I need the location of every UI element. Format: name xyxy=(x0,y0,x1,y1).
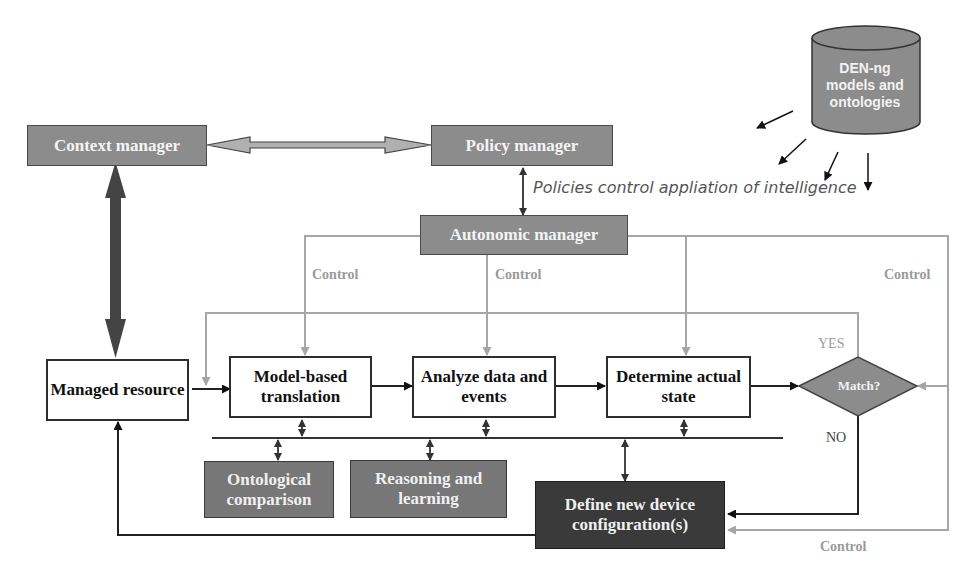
determine-actual-state-node: Determine actual state xyxy=(606,356,751,418)
context-manager-node: Context manager xyxy=(27,125,207,166)
reasoning-learning-node: Reasoning and learning xyxy=(350,460,507,518)
managed-resource-label: Managed resource xyxy=(51,380,185,400)
match-decision-label: Match? xyxy=(800,378,918,394)
context-resource-link xyxy=(105,162,126,358)
autonomic-manager-node: Autonomic manager xyxy=(420,215,628,255)
ontological-comparison-label: Ontological comparison xyxy=(205,470,333,509)
analyze-data-events-label: Analyze data and events xyxy=(414,367,554,406)
define-new-config-label: Define new device configuration(s) xyxy=(536,495,724,534)
determine-actual-state-label: Determine actual state xyxy=(608,367,749,406)
policy-manager-label: Policy manager xyxy=(466,136,579,156)
database-label: DEN-ng models and ontologies xyxy=(815,60,915,110)
analyze-data-events-node: Analyze data and events xyxy=(412,356,556,418)
yes-label: YES xyxy=(818,336,844,352)
autonomic-manager-label: Autonomic manager xyxy=(450,225,599,245)
managed-resource-node: Managed resource xyxy=(46,359,189,421)
no-label: NO xyxy=(826,430,846,446)
control-label-4: Control xyxy=(820,539,866,555)
control-label-3: Control xyxy=(884,267,930,283)
ontological-comparison-node: Ontological comparison xyxy=(204,461,334,518)
model-based-translation-label: Model-based translation xyxy=(231,367,370,406)
reasoning-learning-label: Reasoning and learning xyxy=(351,469,506,508)
policy-manager-node: Policy manager xyxy=(431,125,613,166)
model-based-translation-node: Model-based translation xyxy=(229,356,372,418)
define-new-config-node: Define new device configuration(s) xyxy=(535,481,725,549)
policy-annotation: Policies control appliation of intellige… xyxy=(533,178,857,197)
context-manager-label: Context manager xyxy=(54,136,180,156)
control-label-1: Control xyxy=(312,267,358,283)
control-label-2: Control xyxy=(495,267,541,283)
context-policy-link xyxy=(207,137,431,153)
